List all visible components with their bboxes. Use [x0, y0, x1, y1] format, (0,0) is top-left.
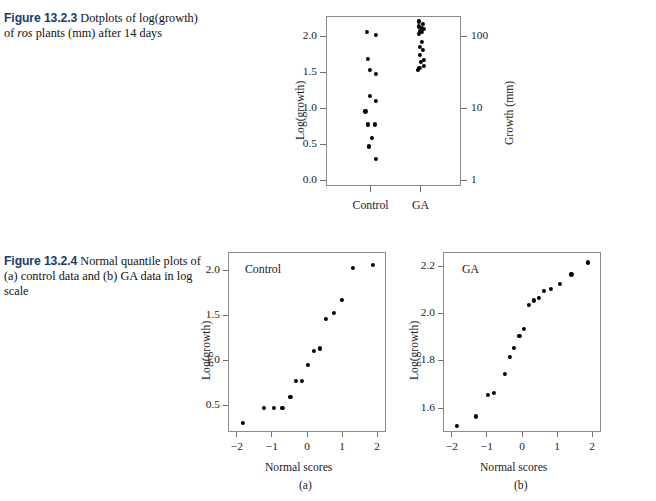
panel-b-point [586, 260, 590, 264]
panel-b-x-tick-label: 2 [572, 440, 612, 452]
panel-b-point [542, 289, 546, 293]
panel-b-y-tick [438, 360, 443, 361]
panel-b-plot-area [444, 253, 600, 431]
panel-b-y-tick [438, 313, 443, 314]
panel-b-x-tick-label: −1 [467, 440, 507, 452]
panel-b-point [503, 372, 507, 376]
panel-b-series-label: GA [462, 262, 479, 277]
panel-b-y-tick [438, 266, 443, 267]
panel-b-x-tick-label: 1 [537, 440, 577, 452]
panel-b-x-tick [451, 432, 452, 437]
panel-b-point [532, 298, 536, 302]
panel-b-y-axis-title: Log(growth) [408, 321, 421, 380]
normal-quantile-plot-ga: −2−10121.61.82.02.2 GA Log(growth) Norma… [0, 0, 656, 501]
panel-b-point [527, 303, 531, 307]
panel-b-point [486, 393, 490, 397]
panel-b-x-tick [557, 432, 558, 437]
panel-b-point [455, 424, 459, 428]
panel-b-point [558, 282, 562, 286]
panel-b-plot-frame [443, 252, 601, 432]
panel-b-point [569, 272, 573, 276]
panel-b-y-tick-label: 2.2 [409, 259, 435, 271]
panel-b-point [508, 355, 512, 359]
panel-b-y-tick [438, 408, 443, 409]
panel-b-x-tick-label: −2 [432, 440, 472, 452]
panel-b-point [537, 296, 541, 300]
panel-b-y-tick-label: 2.0 [409, 306, 435, 318]
panel-b-x-tick [592, 432, 593, 437]
panel-b-point [492, 391, 496, 395]
panel-b-x-tick [522, 432, 523, 437]
panel-b-y-tick-label: 1.6 [409, 401, 435, 413]
panel-b-x-tick [486, 432, 487, 437]
panel-b-point [512, 346, 516, 350]
panel-b-x-tick-label: 0 [502, 440, 542, 452]
panel-b-point [549, 286, 553, 290]
panel-b-tag: (b) [514, 479, 528, 492]
panel-b-point [517, 334, 521, 338]
panel-b-point [522, 327, 526, 331]
panel-b-point [474, 414, 478, 418]
panel-b-x-axis-title: Normal scores [480, 461, 547, 474]
